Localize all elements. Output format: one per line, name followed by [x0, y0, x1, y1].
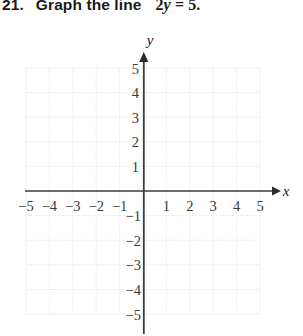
x-tick-label: 5 [256, 198, 263, 214]
y-tick-label: 3 [132, 110, 139, 126]
y-tick-label: 1 [132, 159, 139, 175]
y-tick-label: −3 [126, 257, 141, 273]
exercise-equation: 2y = 5. [155, 0, 200, 14]
equation-right-side: = 5. [175, 0, 201, 13]
equation-variable: y [164, 0, 171, 13]
x-tick-label: 3 [210, 198, 217, 214]
y-tick-label: −4 [126, 282, 142, 298]
y-tick-label: 2 [132, 134, 139, 150]
x-tick-label: −3 [65, 198, 80, 214]
x-tick-label: −4 [42, 198, 58, 214]
x-tick-label: −5 [18, 198, 33, 214]
equation-coefficient: 2 [155, 0, 163, 13]
x-tick-label: 2 [186, 198, 193, 214]
exercise-instruction: Graph the line [36, 0, 142, 14]
x-tick-label: 1 [163, 198, 170, 214]
x-axis [25, 186, 281, 195]
x-tick-label: 4 [233, 198, 241, 214]
exercise-prompt: 21.Graph the line2y = 5. [0, 0, 303, 18]
y-tick-label: 5 [132, 61, 139, 77]
y-tick-label: −1 [126, 208, 141, 224]
exercise-number: 21. [2, 0, 24, 14]
graph-canvas: x y −5 −4 −3 −2 −1 1 2 3 4 5 5 4 3 2 1 −… [0, 18, 303, 336]
coordinate-graph: x y −5 −4 −3 −2 −1 1 2 3 4 5 5 4 3 2 1 −… [0, 18, 303, 336]
y-tick-label: −2 [126, 233, 141, 249]
x-tick-label: −2 [88, 198, 103, 214]
x-axis-label: x [282, 183, 290, 199]
y-tick-label: 4 [132, 85, 140, 101]
y-tick-label: −5 [126, 307, 141, 323]
y-axis-label: y [145, 32, 154, 48]
